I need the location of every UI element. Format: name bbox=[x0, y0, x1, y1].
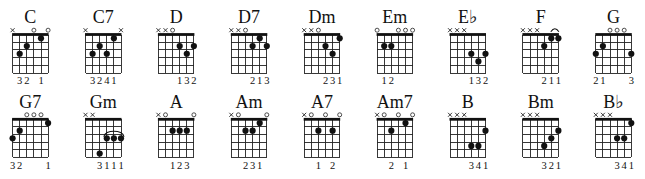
finger-number: 1 bbox=[556, 75, 561, 86]
nut bbox=[377, 118, 414, 121]
chord-name: Gm bbox=[90, 92, 117, 112]
finger-dot bbox=[257, 35, 263, 41]
muted-string-icon bbox=[462, 28, 466, 32]
open-string-icon bbox=[32, 113, 36, 117]
finger-dot bbox=[45, 120, 51, 126]
finger-dot bbox=[118, 135, 124, 141]
finger-dot bbox=[600, 43, 606, 49]
muted-string-icon bbox=[156, 113, 160, 117]
finger-number: 2 bbox=[177, 160, 182, 171]
finger-dot bbox=[593, 51, 599, 57]
finger-dot bbox=[468, 143, 474, 149]
chord-name: A7 bbox=[311, 92, 333, 112]
chord-name: D7 bbox=[238, 7, 260, 27]
finger-number: 3 bbox=[184, 75, 189, 86]
muted-string-icon bbox=[164, 28, 168, 32]
finger-number: 1 bbox=[257, 160, 262, 171]
muted-string-icon bbox=[455, 113, 459, 117]
finger-dot bbox=[242, 128, 248, 134]
open-string-icon bbox=[244, 28, 248, 32]
finger-number: 3 bbox=[10, 160, 15, 171]
nut bbox=[85, 33, 122, 36]
nut bbox=[158, 33, 195, 36]
chord-diagram-a7: A712 bbox=[302, 92, 342, 171]
finger-number: 1 bbox=[111, 160, 116, 171]
finger-number: 3 bbox=[264, 75, 269, 86]
chord-diagram-f: F211 bbox=[521, 7, 562, 86]
finger-number: 4 bbox=[104, 75, 110, 86]
nut bbox=[85, 118, 122, 121]
finger-dot bbox=[250, 128, 256, 134]
finger-dot bbox=[541, 143, 547, 149]
nut bbox=[12, 33, 49, 36]
chord-name: C bbox=[24, 7, 36, 27]
fretboard-grid bbox=[450, 118, 487, 157]
finger-number: 2 bbox=[191, 75, 196, 86]
open-string-icon bbox=[338, 113, 342, 117]
finger-dot bbox=[38, 35, 44, 41]
finger-dot bbox=[621, 135, 627, 141]
chord-diagram-am7: Am721 bbox=[375, 92, 415, 171]
finger-dot bbox=[184, 51, 190, 57]
muted-string-icon bbox=[535, 28, 539, 32]
open-string-icon bbox=[382, 113, 386, 117]
finger-dot bbox=[97, 43, 103, 49]
fretboard-grid bbox=[377, 33, 414, 73]
muted-string-icon bbox=[448, 113, 452, 117]
open-string-icon bbox=[192, 113, 196, 117]
chord-name: B bbox=[462, 92, 474, 112]
chord-name: A bbox=[170, 92, 183, 112]
muted-string-icon bbox=[119, 28, 123, 32]
open-string-icon bbox=[396, 28, 400, 32]
finger-dot bbox=[468, 51, 474, 57]
finger-dot bbox=[111, 135, 117, 141]
open-string-icon bbox=[171, 28, 175, 32]
muted-string-icon bbox=[84, 113, 88, 117]
open-string-icon bbox=[46, 28, 50, 32]
nut bbox=[12, 118, 49, 121]
muted-string-icon bbox=[535, 113, 539, 117]
nut bbox=[377, 33, 414, 36]
muted-string-icon bbox=[302, 113, 306, 117]
chord-diagram-em: Em12 bbox=[375, 7, 415, 86]
finger-number: 1 bbox=[600, 75, 605, 86]
open-string-icon bbox=[615, 28, 619, 32]
finger-dot bbox=[402, 120, 408, 126]
chord-name: Am7 bbox=[377, 92, 413, 112]
open-string-icon bbox=[396, 113, 400, 117]
finger-dot bbox=[264, 43, 270, 49]
chord-diagram-g7: G7321 bbox=[10, 92, 52, 171]
chord-diagram-c: C321 bbox=[11, 7, 51, 86]
muted-string-icon bbox=[156, 28, 160, 32]
chord-name: Am bbox=[236, 92, 263, 112]
open-string-icon bbox=[404, 28, 408, 32]
open-string-icon bbox=[265, 113, 269, 117]
finger-dot bbox=[388, 128, 394, 134]
finger-dot bbox=[548, 35, 554, 41]
chord-diagram-am: Am231 bbox=[229, 92, 268, 171]
finger-dot bbox=[177, 43, 183, 49]
finger-number: 1 bbox=[257, 75, 262, 86]
muted-string-icon bbox=[608, 113, 612, 117]
finger-number: 1 bbox=[337, 75, 342, 86]
finger-dot bbox=[104, 135, 110, 141]
open-string-icon bbox=[25, 113, 29, 117]
finger-number: 2 bbox=[389, 160, 394, 171]
finger-number: 1 bbox=[556, 160, 561, 171]
muted-string-icon bbox=[521, 28, 525, 32]
finger-dot bbox=[548, 135, 554, 141]
finger-dot bbox=[90, 51, 96, 57]
finger-number: 3 bbox=[250, 160, 255, 171]
finger-dot bbox=[111, 35, 117, 41]
chord-diagram-bm: Bm321 bbox=[521, 92, 562, 171]
open-string-icon bbox=[411, 113, 415, 117]
finger-number: 2 bbox=[24, 75, 29, 86]
nut bbox=[304, 118, 341, 121]
finger-dot bbox=[475, 143, 481, 149]
nut bbox=[304, 33, 341, 36]
muted-string-icon bbox=[528, 28, 532, 32]
open-string-icon bbox=[411, 28, 415, 32]
chord-name: G bbox=[607, 7, 620, 27]
finger-number: 1 bbox=[403, 160, 408, 171]
finger-number: 3 bbox=[614, 160, 619, 171]
